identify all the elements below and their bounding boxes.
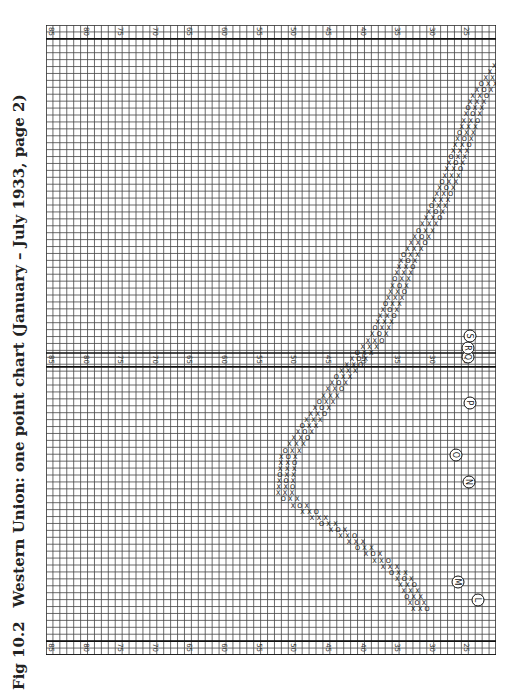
svg-text:Q: Q (463, 354, 472, 360)
price-axis-label: 60 (220, 27, 228, 36)
price-axis-label: 45 (324, 355, 332, 364)
svg-text:P: P (465, 401, 474, 406)
price-axis-label: 70 (151, 355, 159, 364)
svg-text:X: X (489, 86, 494, 94)
svg-text:O: O (355, 544, 360, 552)
svg-text:X: X (335, 392, 340, 400)
price-axis-label: 45 (324, 643, 332, 652)
svg-text:O: O (281, 495, 286, 503)
circled-annotation-m: M (452, 576, 464, 588)
svg-text:X: X (434, 220, 439, 228)
svg-text:X: X (418, 605, 423, 613)
svg-text:X: X (381, 563, 386, 571)
svg-text:X: X (384, 330, 389, 338)
price-axis-label: 80 (82, 355, 90, 364)
price-axis-label: 30 (428, 643, 436, 652)
svg-text:N: N (464, 479, 473, 485)
svg-text:O: O (305, 434, 310, 442)
svg-text:L: L (473, 598, 482, 603)
svg-text:X: X (353, 367, 358, 375)
svg-text:X: X (297, 447, 302, 455)
svg-text:S: S (465, 333, 474, 338)
figure-number: Fig 10.2 (10, 621, 28, 690)
price-axis-label: 65 (185, 27, 193, 36)
circled-annotation-o: O (450, 449, 462, 461)
price-axis-label: 40 (359, 27, 367, 36)
price-axis-label: 50 (289, 27, 297, 36)
svg-text:X: X (372, 557, 377, 565)
price-axis-label: 70 (151, 27, 159, 36)
svg-text:O: O (322, 410, 327, 418)
price-axis-label: 30 (428, 355, 436, 364)
svg-text:X: X (495, 68, 496, 76)
circled-annotation-r: R (462, 342, 474, 354)
price-axis-label: 65 (185, 355, 193, 364)
price-axis-label: 75 (116, 355, 124, 364)
svg-text:O: O (339, 385, 344, 393)
svg-text:X: X (419, 245, 424, 253)
price-axis-label: 55 (255, 27, 263, 36)
svg-text:X: X (301, 440, 306, 448)
svg-text:X: X (430, 227, 435, 235)
price-axis-label: 45 (324, 27, 332, 36)
price-axis-label: 25 (462, 643, 470, 652)
price-axis-label: 85 (47, 643, 55, 652)
price-axis-label: 55 (255, 355, 263, 364)
price-axis-label: 80 (82, 643, 90, 652)
price-axis-label: 35 (393, 643, 401, 652)
circled-annotation-l: L (472, 594, 484, 606)
svg-text:X: X (329, 526, 334, 534)
svg-text:X: X (338, 532, 343, 540)
svg-text:X: X (291, 502, 296, 510)
svg-text:O: O (389, 569, 394, 577)
svg-text:X: X (364, 355, 369, 363)
price-axis-label: 75 (116, 643, 124, 652)
price-axis-label: 75 (116, 27, 124, 36)
price-axis-label: 60 (220, 643, 228, 652)
price-axis-label: 55 (255, 643, 263, 652)
svg-text:M: M (453, 579, 462, 586)
price-axis-label: 85 (47, 27, 55, 36)
svg-text:X: X (310, 428, 315, 436)
circled-annotation-n: N (463, 476, 475, 488)
svg-text:X: X (327, 404, 332, 412)
svg-text:X: X (364, 550, 369, 558)
svg-text:X: X (344, 379, 349, 387)
svg-text:X: X (493, 80, 496, 88)
price-axis-label: 35 (393, 27, 401, 36)
price-axis-label: 60 (220, 355, 228, 364)
price-axis-label: 35 (393, 355, 401, 364)
svg-text:O: O (424, 605, 429, 613)
svg-text:X: X (411, 605, 416, 613)
svg-text:O: O (319, 520, 324, 528)
price-axis-label: 30 (428, 27, 436, 36)
svg-text:X: X (310, 514, 315, 522)
price-axis-label: 25 (462, 27, 470, 36)
svg-text:X: X (347, 538, 352, 546)
figure-caption: Fig 10.2Western Union: one point chart (… (10, 94, 28, 690)
figure-title: Western Union: one point chart (January … (10, 94, 28, 607)
price-axis-label: 50 (289, 643, 297, 652)
point-and-figure-chart: 8580757065605550454035302520858075706560… (46, 25, 496, 655)
svg-text:O: O (379, 337, 384, 345)
circled-annotation-p: P (464, 397, 476, 409)
price-axis-label: 40 (359, 643, 367, 652)
price-axis-label: 65 (185, 643, 193, 652)
svg-text:O: O (451, 452, 460, 458)
svg-text:X: X (300, 508, 305, 516)
circled-annotation-s: S (464, 330, 476, 342)
price-axis-label: 70 (151, 643, 159, 652)
price-axis-label: 85 (47, 355, 55, 364)
svg-text:X: X (318, 416, 323, 424)
svg-text:R: R (463, 345, 472, 351)
svg-text:X: X (374, 343, 379, 351)
svg-text:X: X (314, 422, 319, 430)
svg-text:X: X (348, 373, 353, 381)
chart-frame (46, 25, 496, 655)
svg-text:O: O (358, 361, 363, 369)
price-axis-label: 50 (289, 355, 297, 364)
price-axis-label: 80 (82, 27, 90, 36)
svg-text:X: X (331, 398, 336, 406)
svg-text:X: X (369, 349, 374, 357)
